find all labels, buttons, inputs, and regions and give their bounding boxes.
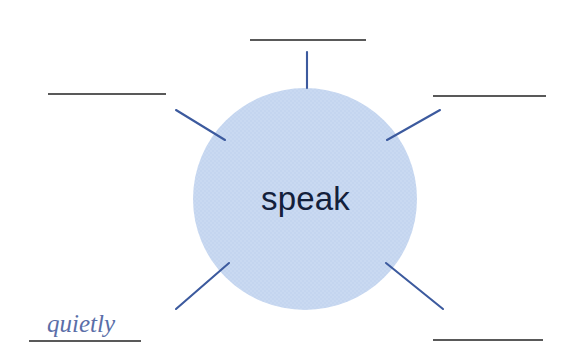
word-web-worksheet: speak quietly xyxy=(0,0,570,361)
spoke-top-right xyxy=(387,110,440,140)
spoke-bottom-left xyxy=(176,263,229,309)
word-web-diagram xyxy=(0,0,570,361)
center-word-bubble xyxy=(193,88,417,310)
answer-bottom-left[interactable]: quietly xyxy=(47,310,115,338)
spoke-bottom-right xyxy=(386,263,443,309)
spoke-top-left xyxy=(176,110,225,140)
